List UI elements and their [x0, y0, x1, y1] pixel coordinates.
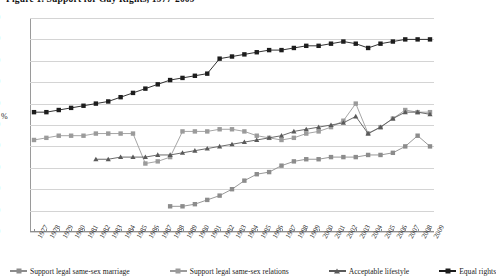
data-point: [94, 131, 98, 135]
data-point: [292, 159, 296, 163]
data-point: [143, 86, 147, 90]
data-point: [32, 138, 36, 142]
data-point: [131, 131, 135, 135]
data-point: [267, 48, 271, 52]
data-point: [156, 82, 160, 86]
legend-label: Support legal same-sex relations: [190, 267, 289, 276]
x-tick-label-2009: 2009: [432, 224, 446, 240]
data-point: [366, 46, 370, 50]
data-point: [81, 104, 85, 108]
data-point: [242, 129, 246, 133]
data-point: [81, 134, 85, 138]
data-point: [354, 155, 358, 159]
legend-item-0[interactable]: Support legal same-sex marriage: [10, 267, 130, 276]
data-point: [118, 131, 122, 135]
series-layer: [30, 18, 434, 232]
data-point: [403, 37, 407, 41]
data-point: [329, 155, 333, 159]
data-point: [217, 56, 221, 60]
data-point: [353, 114, 358, 119]
data-point: [354, 101, 358, 105]
data-point: [304, 157, 308, 161]
data-point: [131, 91, 135, 95]
legend-item-1[interactable]: Support legal same-sex relations: [170, 267, 289, 276]
legend-marker-icon: [439, 270, 456, 271]
data-point: [378, 153, 382, 157]
series-line: [170, 136, 430, 207]
data-point: [366, 153, 370, 157]
data-point: [205, 129, 209, 133]
data-point: [230, 187, 234, 191]
legend-marker-icon: [170, 270, 187, 271]
data-point: [69, 106, 73, 110]
data-point: [304, 44, 308, 48]
data-point: [193, 202, 197, 206]
data-point: [292, 46, 296, 50]
data-point: [292, 136, 296, 140]
data-point: [428, 144, 432, 148]
data-point: [57, 108, 61, 112]
data-point: [143, 161, 147, 165]
data-point: [156, 159, 160, 163]
legend-item-3[interactable]: Equal rights: [439, 267, 496, 276]
data-point: [428, 37, 432, 41]
data-point: [118, 95, 122, 99]
data-point: [267, 170, 271, 174]
data-point: [205, 71, 209, 75]
data-point: [44, 136, 48, 140]
series-0: [168, 134, 432, 209]
data-point: [304, 131, 308, 135]
data-point: [279, 138, 283, 142]
data-point: [168, 204, 172, 208]
data-point: [354, 41, 358, 45]
data-point: [316, 44, 320, 48]
data-point: [69, 134, 73, 138]
data-point: [217, 127, 221, 131]
data-point: [230, 127, 234, 131]
data-point: [255, 134, 259, 138]
data-point: [415, 134, 419, 138]
plot-area: 0102030405060708090100 19771978197919801…: [30, 18, 434, 232]
square-marker-icon: [16, 268, 21, 273]
data-point: [230, 54, 234, 58]
legend-marker-icon: [10, 270, 27, 271]
series-line: [96, 112, 430, 159]
data-point: [32, 110, 36, 114]
legend-marker-icon: [329, 270, 346, 271]
data-point: [193, 74, 197, 78]
data-point: [57, 134, 61, 138]
data-point: [242, 178, 246, 182]
data-point: [341, 155, 345, 159]
data-point: [316, 129, 320, 133]
data-point: [242, 52, 246, 56]
data-point: [255, 172, 259, 176]
chart-legend: Support legal same-sex marriageSupport l…: [0, 262, 441, 280]
data-point: [44, 110, 48, 114]
data-point: [180, 76, 184, 80]
data-point: [255, 50, 259, 54]
data-point: [415, 37, 419, 41]
data-point: [205, 198, 209, 202]
data-point: [180, 129, 184, 133]
square-marker-icon: [176, 268, 181, 273]
data-point: [403, 144, 407, 148]
data-point: [329, 41, 333, 45]
legend-label: Support legal same-sex marriage: [30, 267, 130, 276]
legend-label: Acceptable lifestyle: [349, 267, 410, 276]
data-point: [279, 163, 283, 167]
data-point: [106, 99, 110, 103]
figure-title: Figure 1. Support for Gay Rights, 1977-2…: [6, 0, 436, 6]
legend-label: Equal rights: [459, 267, 496, 276]
data-point: [94, 101, 98, 105]
series-3: [32, 37, 432, 114]
square-marker-icon: [445, 268, 450, 273]
data-point: [378, 41, 382, 45]
data-point: [391, 39, 395, 43]
triangle-marker-icon: [334, 268, 340, 273]
series-1: [32, 101, 432, 165]
legend-item-2[interactable]: Acceptable lifestyle: [329, 267, 410, 276]
data-point: [168, 78, 172, 82]
series-line: [34, 39, 430, 112]
y-axis-label: %: [1, 112, 8, 121]
